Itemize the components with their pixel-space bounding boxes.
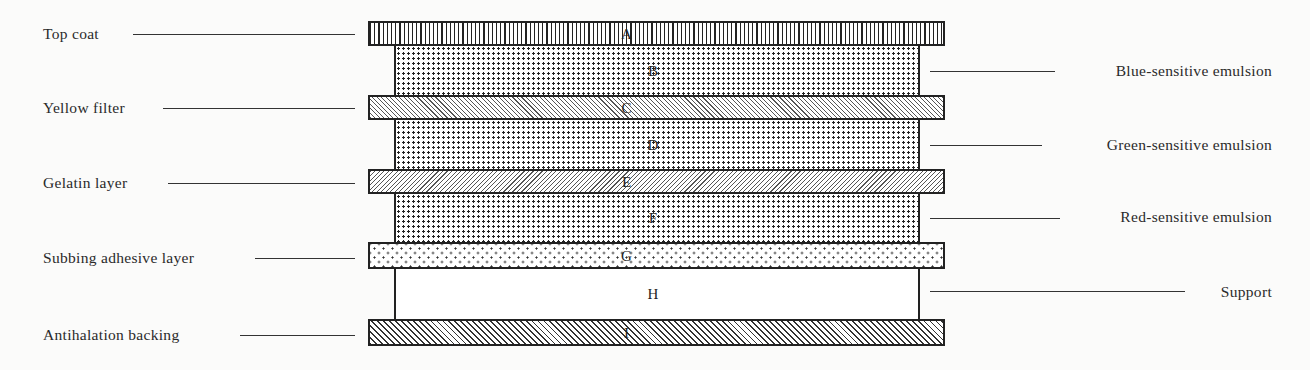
label-blue-sensitive-emulsion: Blue-sensitive emulsion <box>1116 62 1272 80</box>
layer-a-top-coat: A <box>368 21 945 46</box>
layer-d-green-sensitive-emulsion: D <box>394 120 920 169</box>
layer-g-subbing-adhesive-layer: G <box>368 242 945 269</box>
label-support: Support <box>1221 283 1272 301</box>
label-gelatin-layer: Gelatin layer <box>43 174 127 192</box>
leader-line <box>930 145 1042 146</box>
layer-letter: B <box>396 62 918 79</box>
label-top-coat: Top coat <box>43 25 99 43</box>
leader-line <box>930 291 1185 292</box>
layer-letter: F <box>396 210 918 227</box>
layer-letter: H <box>396 286 918 303</box>
leader-line <box>255 258 355 259</box>
layer-f-red-sensitive-emulsion: F <box>394 194 920 242</box>
label-green-sensitive-emulsion: Green-sensitive emulsion <box>1107 136 1272 154</box>
leader-line <box>133 34 355 35</box>
label-antihalation-backing: Antihalation backing <box>43 326 179 344</box>
layer-letter: A <box>370 25 943 42</box>
layer-e-gelatin-layer: E <box>368 169 945 194</box>
layer-i-antihalation-backing: I <box>368 319 945 346</box>
layer-letter: E <box>370 173 943 190</box>
leader-line <box>240 335 355 336</box>
label-yellow-filter: Yellow filter <box>43 99 125 117</box>
leader-line <box>930 218 1060 219</box>
leader-line <box>168 183 355 184</box>
layer-letter: C <box>370 99 943 116</box>
label-red-sensitive-emulsion: Red-sensitive emulsion <box>1120 208 1272 226</box>
layer-b-blue-sensitive-emulsion: B <box>394 46 920 95</box>
layer-letter: G <box>370 247 943 264</box>
leader-line <box>930 71 1055 72</box>
layer-letter: I <box>370 324 943 341</box>
label-subbing-adhesive-layer: Subbing adhesive layer <box>43 249 194 267</box>
layer-h-support: H <box>394 269 920 319</box>
leader-line <box>163 108 355 109</box>
layer-letter: D <box>396 136 918 153</box>
layer-c-yellow-filter: C <box>368 95 945 120</box>
